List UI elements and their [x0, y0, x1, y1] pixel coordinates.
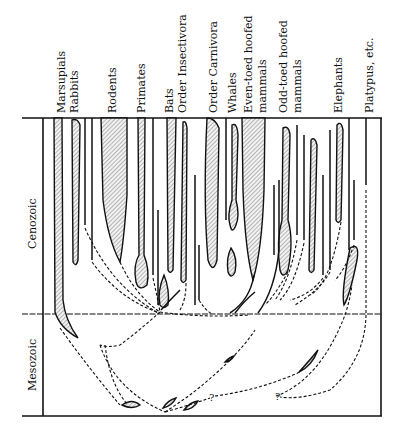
phylogeny-diagram: Marsupials Rabbits Rodents Primates Bats… [0, 0, 399, 440]
uncertain-mark-2: ? [275, 391, 280, 402]
label-order-insectivora: Order Insectivora [177, 14, 188, 113]
lineages-shaded [54, 118, 358, 410]
lineage-rodents [101, 118, 127, 262]
label-odd-toed-hoofed-mammals-line2: mammals [292, 59, 303, 113]
era-label-mesozoic: Mesozoic [26, 339, 39, 391]
label-rabbits: Rabbits [69, 70, 80, 113]
label-even-toed-hoofed-mammals: Even-toed hoofed [243, 15, 254, 113]
label-odd-toed-hoofed-mammals: Odd-toed hoofed [278, 20, 289, 113]
label-order-carnivora: Order Carnivora [208, 21, 219, 113]
uncertain-mark-1: ? [209, 392, 214, 403]
era-label-cenozoic: Cenozoic [26, 198, 39, 249]
label-elephants: Elephants [333, 57, 344, 113]
label-marsupials: Marsupials [56, 51, 67, 113]
label-rodents: Rodents [107, 67, 118, 113]
label-even-toed-hoofed-mammals-line2: mammals [257, 59, 268, 113]
label-primates: Primates [136, 63, 147, 113]
label-whales: Whales [227, 72, 238, 113]
lineage-even-toed [242, 118, 265, 280]
label-bats: Bats [164, 88, 175, 113]
label-platypus: Platypus, etc. [364, 38, 375, 113]
